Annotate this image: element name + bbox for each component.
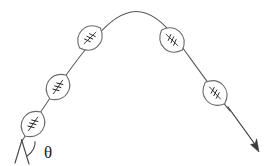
football-marker-3 xyxy=(72,20,108,56)
velocity-arrow xyxy=(228,107,259,152)
football-marker-2 xyxy=(41,69,76,106)
angle-arc-icon xyxy=(28,142,36,156)
figure-canvas: θ xyxy=(0,0,274,166)
football-markers-group xyxy=(16,20,233,142)
launch-angle-label: θ xyxy=(44,143,52,162)
football-marker-5 xyxy=(197,75,233,112)
arrow-shaft xyxy=(228,107,256,145)
football-marker-4 xyxy=(154,22,190,58)
angle-vertical-ray xyxy=(22,140,30,165)
launch-angle-marker xyxy=(15,140,35,165)
football-marker-1 xyxy=(16,106,51,143)
angle-launch-ray xyxy=(15,140,22,163)
projectile-figure: θ xyxy=(0,0,274,166)
